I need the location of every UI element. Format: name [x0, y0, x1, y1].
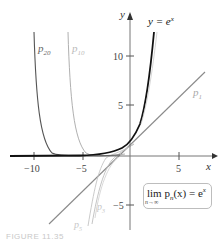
- x-axis-label: x: [205, 160, 211, 172]
- x-tick-label: −10: [24, 163, 40, 174]
- y-tick-label: −5: [113, 200, 124, 211]
- p3-label: p3: [96, 201, 105, 214]
- x-axis-arrow-icon: [212, 153, 218, 159]
- x-tick-label: 5: [176, 163, 181, 174]
- y-tick-label: 5: [118, 100, 123, 111]
- figure-caption: FIGURE 11.35: [6, 232, 64, 241]
- p5-label: p5: [73, 219, 82, 232]
- limit-subscript: n→∞: [145, 199, 158, 205]
- y-axis-arrow-icon: [127, 12, 133, 20]
- exp-label: y = ex: [147, 15, 175, 27]
- y-axis-label: y: [119, 8, 125, 20]
- y-tick-label: 10: [113, 51, 123, 62]
- x-tick-label: −5: [76, 163, 87, 174]
- p1-label: p1: [192, 86, 202, 101]
- p10-label: p10: [71, 42, 85, 57]
- p20-label: p20: [37, 42, 51, 57]
